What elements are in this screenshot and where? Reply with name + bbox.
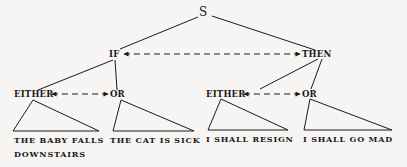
leaf-baby-falls-line2: DOWNSTAIRS bbox=[14, 147, 104, 161]
node-then: THEN bbox=[302, 49, 331, 59]
leaf-shall-resign: I SHALL RESIGN bbox=[206, 132, 294, 146]
node-s: S bbox=[199, 5, 207, 19]
leaf-shall-go-mad: I SHALL GO MAD bbox=[303, 132, 393, 146]
node-either-right: EITHER bbox=[206, 89, 246, 99]
node-or-right: OR bbox=[302, 89, 317, 99]
node-or-left: OR bbox=[110, 89, 125, 99]
leaf-baby-falls: THE BABY FALLS DOWNSTAIRS bbox=[14, 133, 104, 161]
leaf-cat-sick: THE CAT IS SICK bbox=[110, 133, 200, 147]
leaf-baby-falls-line1: THE BABY FALLS bbox=[14, 133, 104, 147]
node-if: IF bbox=[109, 49, 119, 59]
node-either-left: EITHER bbox=[14, 89, 54, 99]
